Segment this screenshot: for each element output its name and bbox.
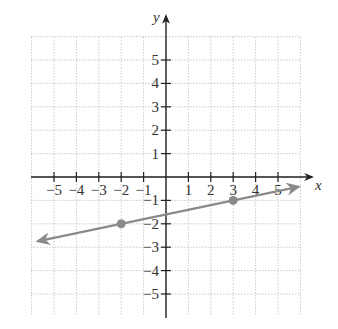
x-tick-label: −3 [91,182,107,198]
x-tick-label: 3 [229,182,237,198]
data-point [117,219,126,228]
x-axis-label: x [314,177,322,193]
y-tick-label: −4 [143,263,159,279]
y-tick-label: −3 [143,239,159,255]
y-tick-label: 4 [152,75,160,91]
x-tick-label: 2 [207,182,215,198]
y-tick-label: −1 [143,192,159,208]
x-tick-label: −4 [68,182,84,198]
y-tick-label: 2 [152,122,160,138]
axes [31,16,312,318]
x-tick-label: 1 [185,182,193,198]
x-tick-label: −5 [46,182,62,198]
y-tick-label: 1 [152,146,160,162]
y-tick-label: 3 [152,99,160,115]
coordinate-plane: −5−4−3−2−112345−5−4−3−2−112345 xy [0,0,338,329]
data-point [229,196,238,205]
y-axis-label: y [151,9,160,25]
x-tick-label: −2 [113,182,129,198]
y-tick-label: −5 [143,286,159,302]
y-tick-label: 5 [152,52,160,68]
